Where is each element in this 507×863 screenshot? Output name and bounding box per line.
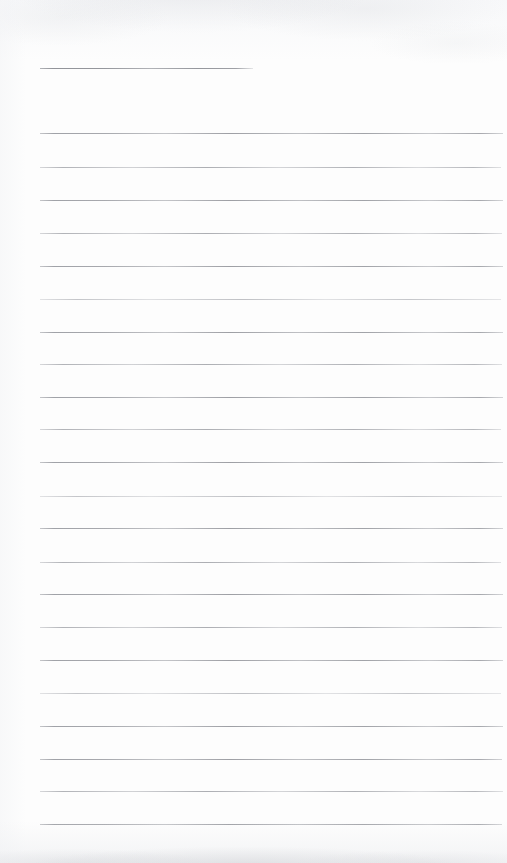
- rule-line: [40, 429, 501, 430]
- rule-line: [40, 726, 503, 727]
- rule-line: [40, 397, 503, 398]
- rule-line: [40, 332, 503, 333]
- rule-line: [40, 824, 502, 825]
- rule-line: [40, 791, 503, 792]
- rule-line: [40, 364, 502, 365]
- rule-line: [40, 462, 503, 463]
- rule-line: [40, 167, 501, 168]
- rule-line: [40, 496, 502, 497]
- rule-line: [40, 133, 503, 134]
- rule-line: [40, 233, 502, 234]
- paper-texture-overlay: [0, 0, 507, 863]
- rule-line: [40, 759, 502, 760]
- rule-line: [40, 562, 501, 563]
- scan-edge-left-shadow: [0, 0, 26, 863]
- rule-line: [40, 693, 501, 694]
- rule-line: [40, 627, 502, 628]
- rule-line: [40, 200, 503, 201]
- rule-line: [40, 299, 501, 300]
- rule-line: [40, 266, 503, 267]
- notepad-page: [0, 0, 507, 863]
- rule-line: [40, 594, 503, 595]
- scan-edge-bottom-shadow: [0, 821, 507, 863]
- title-rule-line: [40, 68, 253, 69]
- rule-line: [40, 528, 503, 529]
- rule-line: [40, 660, 503, 661]
